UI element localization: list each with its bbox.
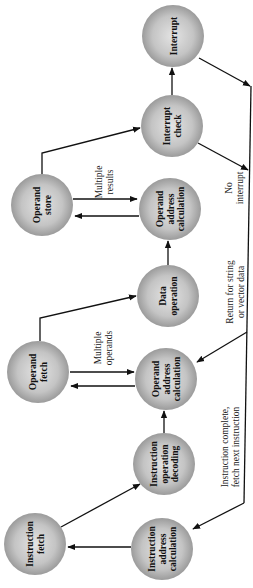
node-operand-fetch: Operandfetch: [7, 341, 69, 403]
node-label: Instructionoperationdecoding: [149, 441, 180, 487]
edge-label-no-interrupt: Nointerrupt: [224, 171, 245, 204]
node-interrupt: Interrupt: [142, 5, 204, 67]
node-operand-address-calculation-store: Operandaddresscalculation: [139, 178, 201, 240]
edge-operand-store-to-interrupt-check: [42, 128, 140, 174]
node-operand-store: Operandstore: [11, 174, 73, 236]
edge-label-multiple-operands: Multipleoperands: [93, 331, 114, 366]
edge-label-return-string-vector: Return for stringor vector data: [225, 260, 246, 324]
edge-label-instruction-complete: Instruction complete,fetch next instruct…: [220, 406, 241, 487]
node-interrupt-check: Interruptcheck: [141, 95, 203, 157]
node-data-operation: Dataoperation: [137, 265, 199, 327]
edge-label-multiple-results: Multipleresults: [94, 166, 115, 199]
edge-interrupt-to-return-line: [199, 58, 250, 86]
node-instruction-fetch: Instructionfetch: [4, 513, 66, 575]
edge-interrupt-check-no-interrupt: [198, 143, 248, 170]
node-instruction-address-calculation: Instructionaddresscalculation: [131, 518, 193, 580]
node-label: Interrupt: [169, 16, 179, 55]
node-instruction-operation-decoding: Instructionoperationdecoding: [133, 433, 195, 495]
instruction-cycle-state-diagram: InterruptInterruptcheckOperandstoreOpera…: [0, 0, 253, 588]
edge-instruction-fetch-to-decoding: [61, 484, 140, 527]
node-operand-address-calculation-fetch: Operandaddresscalculation: [135, 348, 197, 410]
nodes: InterruptInterruptcheckOperandstoreOpera…: [4, 5, 204, 580]
edge-return-string-vector: [197, 332, 247, 362]
edge-instruction-complete: [193, 503, 244, 529]
edge-operand-fetch-to-data-operation: [40, 296, 136, 341]
